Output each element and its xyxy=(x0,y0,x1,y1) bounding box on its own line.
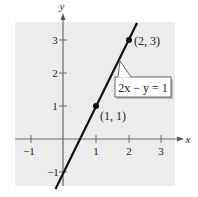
point-1-1-label: (1, 1) xyxy=(100,109,126,123)
y-tick-label: 2 xyxy=(52,67,58,79)
x-tick-label: 1 xyxy=(93,145,99,157)
point-1-1 xyxy=(93,103,99,109)
x-tick-label: 3 xyxy=(158,145,164,157)
point-2-3 xyxy=(126,37,132,43)
point-2-3-label: (2, 3) xyxy=(134,34,160,48)
x-tick-label: 2 xyxy=(126,145,132,157)
y-axis-label: y xyxy=(59,0,65,12)
line-graph: −1 1 2 3 x 3 2 1 −1 y (1, 1) (2, 3) 2x −… xyxy=(0,0,198,197)
y-tick-label: 1 xyxy=(52,100,58,112)
y-tick-label: −1 xyxy=(47,166,59,178)
equation-label: 2x − y = 1 xyxy=(118,81,168,95)
y-axis-arrow-icon xyxy=(61,13,66,20)
y-tick-label: 3 xyxy=(52,34,58,46)
x-axis-arrow-icon xyxy=(177,137,184,142)
x-tick-label: −1 xyxy=(23,145,35,157)
x-axis-label: x xyxy=(185,133,191,145)
